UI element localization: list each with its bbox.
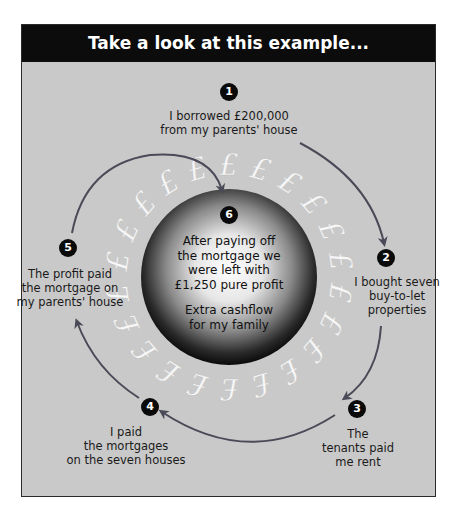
svg-text:£: £ <box>246 149 275 188</box>
arrow-2-to-3 <box>345 326 381 398</box>
step-3-label: The tenants paid me rent <box>322 427 394 469</box>
svg-text:£: £ <box>107 308 147 341</box>
svg-text:£: £ <box>124 185 164 223</box>
step-4-badge: 4 <box>141 398 159 416</box>
svg-text:£: £ <box>183 365 212 404</box>
svg-text:£: £ <box>247 365 276 404</box>
svg-text:£: £ <box>294 331 334 369</box>
step-2-label: I bought seven buy-to-let properties <box>354 275 440 317</box>
svg-text:£: £ <box>125 332 165 370</box>
center-text: After paying off the mortgage we were le… <box>175 234 284 332</box>
step-1-label: I borrowed £200,000 from my parents' hou… <box>160 109 297 137</box>
svg-text:£: £ <box>311 213 351 246</box>
step-2-badge: 2 <box>377 249 395 267</box>
svg-text:£: £ <box>294 184 334 222</box>
step-3-badge: 3 <box>348 400 366 418</box>
svg-text:£: £ <box>182 150 211 189</box>
step-6-badge: 6 <box>220 206 238 224</box>
svg-text:£: £ <box>272 351 308 391</box>
svg-text:£: £ <box>150 162 186 202</box>
svg-text:£: £ <box>106 214 146 247</box>
step-4-label: I paid the mortgages on the seven houses <box>66 425 185 467</box>
arrow-3-to-4 <box>162 412 335 442</box>
step-5-label: The profit paid the mortgage on my paren… <box>17 267 124 309</box>
svg-text:£: £ <box>322 248 360 273</box>
svg-text:£: £ <box>311 307 351 340</box>
svg-text:£: £ <box>218 147 238 182</box>
step-1-badge: 1 <box>220 83 238 101</box>
svg-text:£: £ <box>219 372 239 407</box>
step-5-badge: 5 <box>59 239 77 257</box>
svg-text:£: £ <box>272 162 308 202</box>
svg-text:£: £ <box>151 352 187 392</box>
